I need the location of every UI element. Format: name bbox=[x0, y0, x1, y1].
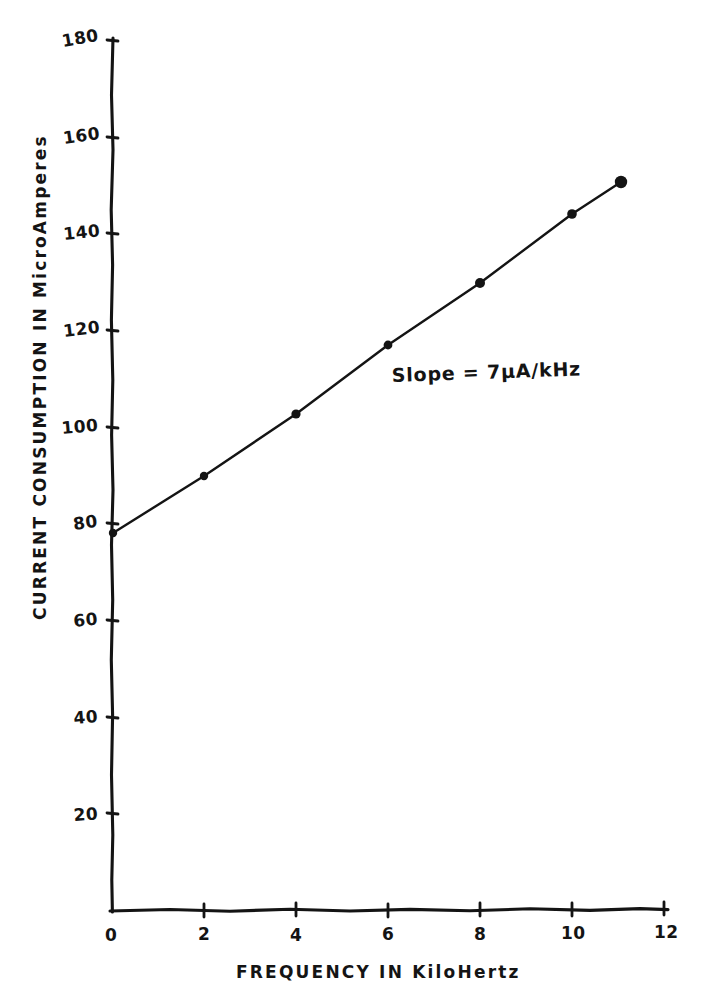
y-axis-title: CURRENT CONSUMPTION IN MicroAmperes bbox=[30, 134, 50, 620]
y-tick-140 bbox=[107, 233, 118, 234]
y-tick-label: 140 bbox=[62, 220, 101, 244]
x-tick-label: 0 bbox=[105, 925, 117, 945]
y-tick-120 bbox=[107, 330, 118, 331]
y-tick-label: 180 bbox=[60, 25, 100, 51]
data-point bbox=[109, 529, 117, 537]
hand-drawn-chart: 180 160 140 120 100 80 60 40 20 0 2 4 6 … bbox=[0, 0, 720, 1003]
slope-annotation: Slope = 7µA/kHz bbox=[391, 357, 581, 386]
y-tick-label: 40 bbox=[73, 706, 99, 728]
x-axis-title: FREQUENCY IN KiloHertz bbox=[236, 962, 521, 982]
data-point bbox=[615, 176, 627, 188]
y-tick-label: 60 bbox=[72, 609, 99, 631]
chart-canvas: 180 160 140 120 100 80 60 40 20 0 2 4 6 … bbox=[0, 0, 720, 1003]
y-tick-100 bbox=[107, 427, 118, 428]
data-point bbox=[384, 341, 393, 350]
data-point bbox=[567, 209, 577, 219]
x-tick-label: 10 bbox=[561, 923, 586, 943]
y-tick-label: 20 bbox=[73, 803, 99, 825]
y-tick-label: 120 bbox=[62, 317, 101, 341]
y-axis-line bbox=[111, 38, 113, 912]
data-line bbox=[113, 182, 621, 533]
data-point bbox=[291, 409, 300, 418]
x-tick-label: 2 bbox=[198, 924, 210, 944]
y-tick-60 bbox=[107, 620, 118, 621]
y-tick-180 bbox=[107, 40, 118, 41]
y-tick-160 bbox=[107, 137, 118, 138]
y-tick-label: 100 bbox=[61, 415, 100, 438]
y-tick-label: 160 bbox=[62, 123, 101, 148]
x-tick-label: 8 bbox=[474, 924, 486, 944]
x-tick-label: 12 bbox=[654, 922, 679, 942]
y-tick-80 bbox=[107, 523, 118, 524]
data-point bbox=[200, 472, 208, 480]
x-tick-label: 6 bbox=[382, 924, 394, 944]
y-tick-20 bbox=[107, 813, 118, 814]
x-tick-label: 4 bbox=[290, 925, 302, 945]
data-point bbox=[475, 278, 485, 288]
y-tick-40 bbox=[107, 717, 118, 718]
y-tick-label: 80 bbox=[72, 511, 99, 534]
